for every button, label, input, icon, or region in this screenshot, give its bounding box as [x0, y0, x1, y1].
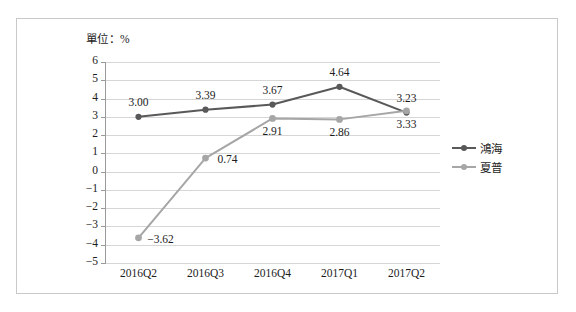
data-point-marker — [269, 101, 275, 107]
chart-legend: 鴻海 夏普 — [452, 138, 532, 176]
data-point-label: 3.67 — [253, 84, 293, 96]
data-point-marker — [269, 115, 276, 122]
data-point-label: 3.23 — [387, 92, 427, 104]
chart-page: 單位：% 6543210−1−2−3−4−5 2016Q22016Q32016Q… — [0, 0, 576, 312]
legend-item-1[interactable]: 夏普 — [452, 157, 532, 176]
legend-label: 夏普 — [480, 159, 502, 175]
legend-marker-icon — [452, 143, 476, 153]
data-point-marker — [202, 107, 208, 113]
data-point-label: 0.74 — [208, 153, 248, 165]
legend-item-0[interactable]: 鴻海 — [452, 138, 532, 157]
legend-marker-icon — [452, 162, 476, 172]
data-point-marker — [336, 116, 343, 123]
data-point-label: 3.39 — [186, 89, 226, 101]
data-point-label: 2.91 — [253, 125, 293, 137]
data-point-label: 4.64 — [320, 66, 360, 78]
data-point-marker — [336, 84, 342, 90]
data-point-marker — [135, 114, 141, 120]
data-point-label: 2.86 — [320, 126, 360, 138]
data-point-label: 3.00 — [119, 96, 159, 108]
data-point-label: 3.33 — [387, 118, 427, 130]
data-point-label: −3.62 — [141, 233, 181, 245]
data-point-marker — [403, 107, 410, 114]
legend-label: 鴻海 — [480, 140, 502, 156]
